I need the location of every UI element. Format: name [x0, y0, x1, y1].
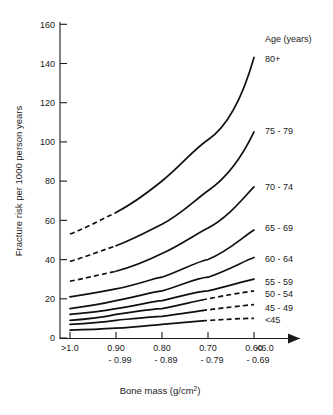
x-axis-title-tail: )	[197, 385, 200, 396]
curve-75-79-dashed	[70, 246, 116, 262]
legend-title: Age (years)	[265, 34, 312, 44]
x-axis-title-main: Bone mass (g/cm	[120, 385, 194, 396]
x-tick-label: >1.0	[61, 343, 79, 353]
chart-canvas: 160 140 120 100 80 60 40 20 0 Fracture r…	[0, 0, 333, 415]
series-label-45-49: 45 - 49	[265, 303, 293, 313]
y-tick-label: 20	[45, 294, 55, 304]
x-tick-label: 0.70	[199, 343, 217, 353]
y-axis: 160 140 120 100 80 60 40 20 0 Fracture r…	[13, 20, 67, 344]
curve-under-45	[70, 321, 202, 330]
y-tick-label: 120	[40, 98, 55, 108]
x-axis-arrow-icon	[288, 334, 300, 344]
series-curves	[70, 57, 254, 330]
x-axis-title: Bone mass (g/cm2)	[120, 385, 201, 397]
y-axis-ticks	[60, 24, 67, 338]
y-tick-label: 140	[40, 59, 55, 69]
curve-under-45-dashed	[202, 318, 254, 320]
y-tick-label: 60	[45, 216, 55, 226]
series-label-65-69: 65 - 69	[265, 223, 293, 233]
x-tick-sublabel: - 0.89	[154, 355, 177, 365]
curve-75-79	[116, 132, 254, 246]
y-axis-tick-labels: 160 140 120 100 80 60 40 20 0	[40, 20, 55, 344]
curve-50-54	[70, 300, 202, 320]
y-tick-label: 0	[50, 333, 55, 343]
curve-45-49-dashed	[202, 305, 254, 311]
series-label-80-plus: 80+	[265, 54, 280, 64]
fracture-risk-chart: 160 140 120 100 80 60 40 20 0 Fracture r…	[0, 0, 333, 415]
x-tick-sublabel: - 0.79	[200, 355, 223, 365]
x-axis: >1.0 0.90 0.80 0.70 0.60 <6.0 - 0.99 - 0…	[60, 332, 300, 396]
x-tick-label-last: <6.0	[256, 343, 274, 353]
y-tick-label: 100	[40, 137, 55, 147]
curve-70-74-dashed	[70, 271, 116, 281]
x-axis-tick-labels: >1.0 0.90 0.80 0.70 0.60 <6.0	[61, 343, 274, 353]
curve-80-plus-dashed	[70, 212, 116, 234]
x-axis-tick-sublabels: - 0.99 - 0.89 - 0.79 - 0.69	[108, 355, 269, 365]
series-label-55-59: 55 - 59	[265, 277, 293, 287]
series-label-50-54: 50 - 54	[265, 289, 293, 299]
x-tick-sublabel: - 0.69	[246, 355, 269, 365]
series-labels: Age (years) 80+ 75 - 79 70 - 74 65 - 69 …	[265, 34, 312, 325]
curve-80-plus	[116, 57, 254, 212]
x-axis-ticks	[70, 332, 254, 339]
series-label-under-45: <45	[265, 315, 280, 325]
series-label-60-64: 60 - 64	[265, 254, 293, 264]
series-label-70-74: 70 - 74	[265, 182, 293, 192]
y-tick-label: 80	[45, 176, 55, 186]
series-label-75-79: 75 - 79	[265, 126, 293, 136]
x-tick-label: 0.90	[107, 343, 125, 353]
x-tick-sublabel: - 0.99	[108, 355, 131, 365]
curve-50-54-dashed	[202, 291, 254, 300]
y-axis-title: Fracture risk per 1000 person years	[13, 106, 24, 257]
y-tick-label: 160	[40, 20, 55, 30]
x-tick-label: 0.80	[153, 343, 171, 353]
y-tick-label: 40	[45, 255, 55, 265]
